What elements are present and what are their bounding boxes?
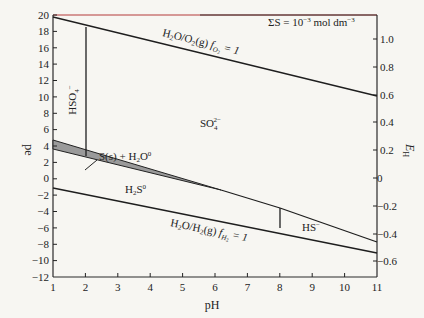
svg-text:8: 8 — [44, 107, 50, 119]
svg-text:18: 18 — [38, 25, 50, 37]
sulfur-region-label: S(s) + H2O0 — [99, 150, 152, 164]
svg-text:−4: −4 — [37, 205, 49, 217]
svg-text:2: 2 — [83, 281, 89, 293]
svg-text:11: 11 — [372, 281, 383, 293]
x-axis-label: pH — [205, 298, 220, 312]
pourbaix-diagram: 20 18 16 14 12 10 8 6 4 2 0 −2 −4 −6 −8 … — [0, 0, 424, 318]
svg-text:6: 6 — [212, 281, 218, 293]
svg-text:0.6: 0.6 — [380, 89, 394, 101]
svg-text:5: 5 — [180, 281, 186, 293]
plot-frame — [53, 15, 377, 277]
svg-text:16: 16 — [38, 42, 50, 54]
o2-line-label: H2O/O2(g) fO2 = 1 — [161, 26, 241, 59]
h2s-region-label: H2S0 — [125, 183, 147, 197]
svg-text:0.4: 0.4 — [380, 116, 394, 128]
hso4-region-label: HSO4− — [66, 85, 81, 115]
svg-text:−8: −8 — [37, 238, 49, 250]
svg-text:−6: −6 — [37, 222, 49, 234]
svg-text:−12: −12 — [32, 271, 49, 283]
hs-region-label: HS− — [302, 221, 320, 233]
svg-text:−0.6: −0.6 — [377, 255, 397, 267]
x-axis: 1 2 3 4 5 6 7 8 9 10 11 — [50, 273, 382, 293]
svg-text:14: 14 — [38, 58, 50, 70]
h2-line-label: H2O/H2(g) fH2 = 1 — [169, 216, 249, 246]
svg-text:H2O/O2(g) fO2 = 1: H2O/O2(g) fO2 = 1 — [161, 26, 241, 59]
svg-text:10: 10 — [38, 91, 50, 103]
sulfur-pointer — [85, 160, 97, 170]
svg-text:0.2: 0.2 — [380, 144, 394, 156]
y2-axis-label: EH — [401, 143, 417, 157]
svg-text:12: 12 — [38, 74, 49, 86]
svg-text:0: 0 — [44, 172, 50, 184]
svg-text:0: 0 — [377, 172, 383, 184]
svg-text:HSO4−: HSO4− — [66, 85, 81, 115]
svg-text:7: 7 — [245, 281, 251, 293]
svg-text:8: 8 — [277, 281, 283, 293]
svg-text:EH: EH — [401, 143, 417, 157]
svg-text:2: 2 — [44, 156, 50, 168]
svg-text:20: 20 — [38, 9, 50, 21]
svg-text:−0.4: −0.4 — [377, 228, 397, 240]
y-axis-label: pe — [22, 144, 36, 155]
svg-text:−2: −2 — [37, 189, 49, 201]
svg-text:−0.2: −0.2 — [377, 200, 397, 212]
svg-text:10: 10 — [339, 281, 351, 293]
so4-region-label: SO42− — [200, 116, 221, 132]
svg-text:4: 4 — [147, 281, 153, 293]
svg-text:6: 6 — [44, 123, 50, 135]
svg-text:0.8: 0.8 — [380, 61, 394, 73]
concentration-annotation: ΣS = 10−3 mol dm−3 — [268, 16, 355, 28]
svg-text:−10: −10 — [32, 254, 50, 266]
svg-text:4: 4 — [44, 140, 50, 152]
svg-text:9: 9 — [309, 281, 315, 293]
svg-text:H2O/H2(g) fH2 = 1: H2O/H2(g) fH2 = 1 — [169, 216, 249, 246]
svg-text:1: 1 — [50, 281, 56, 293]
svg-text:3: 3 — [115, 281, 121, 293]
svg-text:1.0: 1.0 — [380, 33, 394, 45]
